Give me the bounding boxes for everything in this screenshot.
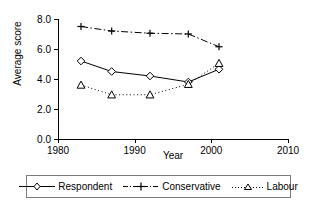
legend-entry-labour[interactable]: Labour [232, 181, 298, 192]
plot-area: 0.0 2.0 4.0 6.0 8.0 1980 1990 2000 2010 [58, 19, 288, 139]
y-tick-label-1: 2.0 [37, 104, 51, 115]
x-axis-label: Year [58, 150, 288, 161]
legend-label-respondent: Respondent [58, 181, 112, 192]
y-tick-label-3: 6.0 [37, 44, 51, 55]
legend: Respondent Conservative Labour [26, 175, 291, 198]
legend-swatch-labour [232, 181, 264, 192]
x-tick-3 [288, 139, 289, 143]
legend-swatch-conservative [123, 181, 159, 192]
chart-container: Average score 0.0 2.0 4.0 6.0 8.0 1980 1… [0, 0, 318, 208]
legend-label-labour: Labour [267, 181, 298, 192]
y-tick-label-2: 4.0 [37, 74, 51, 85]
legend-label-conservative: Conservative [162, 181, 220, 192]
y-tick-label-4: 8.0 [37, 14, 51, 25]
data-series-layer [58, 19, 288, 140]
legend-swatch-respondent [19, 181, 55, 192]
legend-entry-conservative[interactable]: Conservative [123, 181, 220, 192]
y-tick-label-0: 0.0 [37, 134, 51, 145]
y-axis-label: Average score [12, 0, 23, 109]
legend-entry-respondent[interactable]: Respondent [19, 181, 112, 192]
